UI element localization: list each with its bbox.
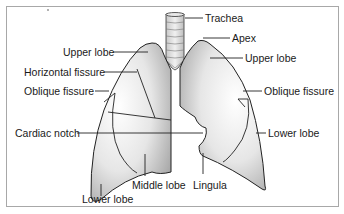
label-horizontal-fissure: Horizontal fissure — [24, 66, 105, 78]
label-upper-lobe-left-lung: Upper lobe — [245, 52, 297, 64]
label-middle-lobe: Middle lobe — [132, 179, 186, 191]
label-apex: Apex — [232, 32, 257, 44]
trachea — [166, 13, 184, 71]
label-lower-lobe-left-lung: Lower lobe — [268, 127, 320, 139]
lungs-diagram: Trachea Apex Upper lobe Oblique fissure … — [0, 0, 344, 214]
label-lower-lobe-right-lung: Lower lobe — [82, 193, 134, 205]
label-trachea: Trachea — [205, 12, 243, 24]
label-oblique-fissure-left-lung: Oblique fissure — [264, 85, 334, 97]
label-oblique-fissure-right-lung: Oblique fissure — [24, 85, 94, 97]
label-cardiac-notch: Cardiac notch — [15, 127, 80, 139]
label-lingula: Lingula — [193, 179, 227, 191]
label-upper-lobe-right-lung: Upper lobe — [63, 46, 115, 58]
